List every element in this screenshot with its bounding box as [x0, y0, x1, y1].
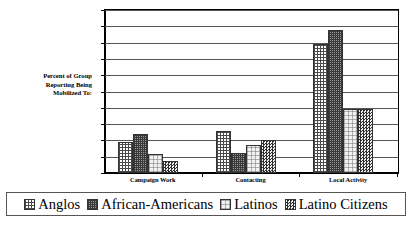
gridline — [105, 92, 398, 93]
y-tick-mark — [101, 108, 105, 109]
y-tick-mark — [101, 26, 105, 27]
legend-item-latino-citizens: Latino Citizens — [285, 197, 388, 212]
x-axis-label-local-activity: Local Activity — [303, 176, 393, 183]
y-axis-label-line-3: Mobilized To: — [18, 89, 92, 98]
x-tick-mark — [202, 173, 203, 177]
gridline — [105, 75, 398, 76]
y-tick-mark — [101, 124, 105, 125]
gridline — [105, 43, 398, 44]
bar-anglos-contacting — [216, 131, 231, 173]
legend-item-anglos: Anglos — [24, 197, 80, 212]
plot-inner: 05101520253035404550 — [105, 10, 398, 173]
legend-swatch-african-americans-icon — [87, 199, 98, 210]
bar-chart-figure: Percent of Group Reporting Being Mobiliz… — [0, 0, 413, 228]
bar-latino-citizens-campaign-work — [163, 161, 178, 173]
bar-latinos-campaign-work — [148, 154, 163, 173]
x-tick-mark — [299, 173, 300, 177]
x-tick-mark — [397, 173, 398, 177]
y-tick-mark — [101, 59, 105, 60]
legend-label-anglos: Anglos — [38, 197, 80, 212]
y-axis-label: Percent of Group Reporting Being Mobiliz… — [18, 72, 92, 98]
y-tick-mark — [101, 10, 105, 11]
y-tick-mark — [101, 140, 105, 141]
x-axis-label-campaign-work: Campaign Work — [108, 176, 198, 183]
bar-african-americans-campaign-work — [133, 134, 148, 173]
x-axis-label-contacting: Contacting — [206, 176, 296, 183]
chart-legend: Anglos African-Americans Latinos Latino … — [6, 192, 406, 216]
y-tick-mark — [101, 173, 105, 174]
bar-anglos-campaign-work — [118, 142, 133, 173]
y-tick-mark — [101, 75, 105, 76]
bar-latino-citizens-contacting — [261, 140, 276, 173]
bar-african-americans-local-activity — [328, 30, 343, 173]
legend-swatch-anglos-icon — [24, 199, 35, 210]
legend-label-african-americans: African-Americans — [101, 197, 213, 212]
bar-latino-citizens-local-activity — [358, 109, 373, 173]
legend-item-latinos: Latinos — [220, 197, 278, 212]
y-axis-label-line-2: Reporting Being — [18, 81, 92, 90]
plot-area: 05101520253035404550 — [104, 9, 399, 174]
gridline — [105, 59, 398, 60]
legend-label-latino-citizens: Latino Citizens — [299, 197, 388, 212]
gridline — [105, 26, 398, 27]
y-tick-mark — [101, 43, 105, 44]
legend-swatch-latino-citizens-icon — [285, 199, 296, 210]
bar-african-americans-contacting — [231, 153, 246, 173]
legend-swatch-latinos-icon — [220, 199, 231, 210]
legend-label-latinos: Latinos — [234, 197, 278, 212]
y-axis-label-line-1: Percent of Group — [18, 72, 92, 81]
y-tick-mark — [101, 92, 105, 93]
legend-item-african-americans: African-Americans — [87, 197, 213, 212]
bar-latinos-contacting — [246, 145, 261, 173]
gridline — [105, 10, 398, 11]
y-tick-mark — [101, 157, 105, 158]
bar-latinos-local-activity — [343, 109, 358, 173]
bar-anglos-local-activity — [313, 44, 328, 173]
